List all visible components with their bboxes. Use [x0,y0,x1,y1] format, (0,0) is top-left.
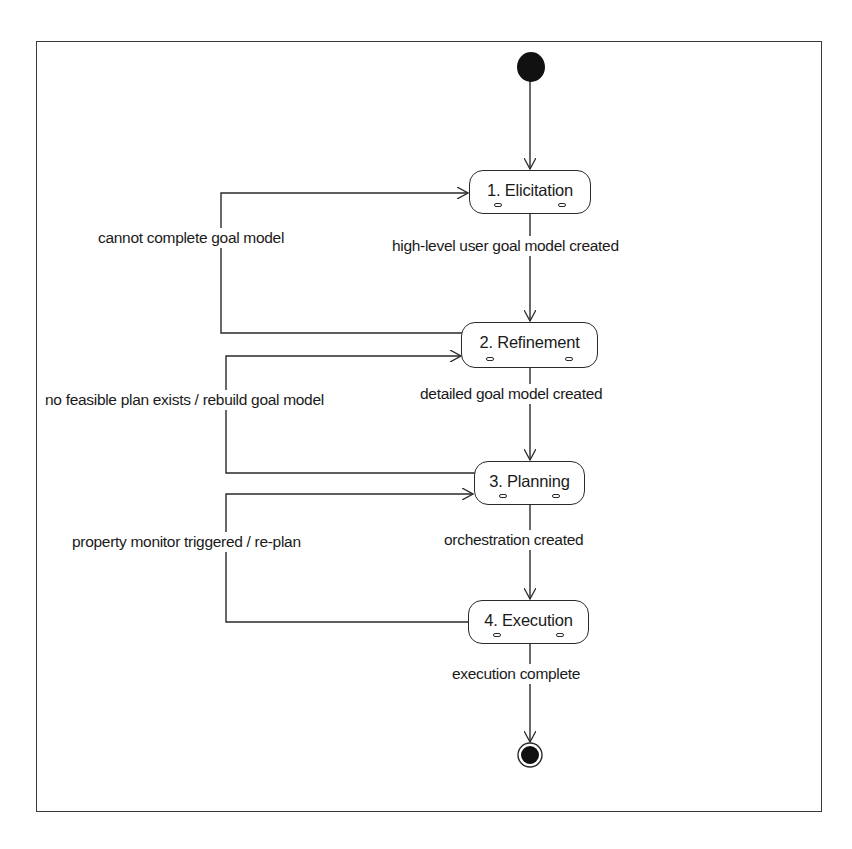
transition-label: high-level user goal model created [390,236,621,256]
final-node-inner [521,746,539,764]
pin-icon [493,633,501,637]
transition-execution-planning [226,494,473,622]
transition-label: cannot complete goal model [96,228,286,248]
transition-label: execution complete [450,664,582,684]
state-label: 2. Refinement [479,333,579,352]
pin-icon [552,494,560,498]
transition-label: orchestration created [442,530,585,550]
initial-node [517,52,545,82]
transition-refinement-elicitation [221,193,468,333]
state-refinement: 2. Refinement [461,322,598,368]
diagram-canvas [0,0,852,849]
state-label: 1. Elicitation [487,181,573,200]
state-label: 3. Planning [489,472,569,491]
pin-icon [499,494,507,498]
state-label: 4. Execution [484,611,572,630]
pin-icon [558,203,566,207]
pin-icon [494,203,502,207]
transition-planning-refinement [226,356,476,473]
transition-label: no feasible plan exists / rebuild goal m… [43,390,326,410]
state-planning: 3. Planning [474,461,585,505]
pin-icon [556,633,564,637]
pin-icon [565,357,573,361]
state-elicitation: 1. Elicitation [469,170,591,214]
state-execution: 4. Execution [468,600,589,644]
transition-label: property monitor triggered / re-plan [70,532,303,552]
transition-label: detailed goal model created [418,384,604,404]
pin-icon [486,357,494,361]
